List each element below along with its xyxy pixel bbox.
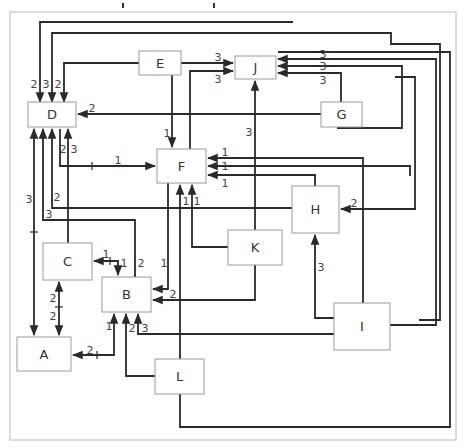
node-k: K — [228, 230, 282, 265]
edge-weight-label: 3 — [320, 60, 327, 73]
edge-weight-label: 2 — [50, 310, 57, 323]
node-e: E — [139, 51, 181, 75]
edge-weight-label: 3 — [215, 73, 222, 86]
edge-weight-label: 2 — [60, 143, 67, 156]
edge-f-to-j — [190, 71, 233, 149]
node-f: F — [157, 149, 206, 183]
edge-weight-label: 3 — [43, 78, 50, 91]
edge-weight-label: 2 — [351, 197, 358, 210]
edge-weight-label: 3 — [246, 126, 253, 139]
edge-weight-label: 1 — [222, 160, 229, 173]
edge-weight-label: 1 — [183, 195, 190, 208]
node-l: L — [155, 359, 204, 394]
top-mark — [213, 3, 215, 8]
edge-f-to-b — [153, 183, 168, 289]
edge-weight-label: 1 — [115, 154, 122, 167]
edge-e-to-d — [64, 63, 139, 102]
diagram-frame — [10, 12, 456, 440]
node-label: K — [251, 240, 260, 255]
edge-weight-label: 2 — [31, 78, 38, 91]
edge-weight-label: 1 — [121, 257, 128, 270]
nodes-layer: DEJGFHCKBIAL — [17, 51, 390, 394]
node-label: I — [360, 319, 364, 334]
node-c: C — [43, 243, 92, 280]
node-b: B — [102, 277, 151, 312]
node-a: A — [17, 337, 71, 371]
node-g: G — [321, 102, 362, 127]
edge-i-to-b — [138, 314, 334, 334]
edge-weight-label: 3 — [71, 143, 78, 156]
edge-weight-label: 2 — [55, 78, 62, 91]
node-label: H — [311, 202, 321, 217]
edge-weight-label: 3 — [215, 51, 222, 64]
node-h: H — [292, 186, 339, 233]
edge-weight-label: 3 — [46, 208, 53, 221]
top-marks — [122, 3, 215, 8]
node-label: D — [47, 107, 57, 122]
edge-g-to-j — [278, 73, 341, 102]
edge-weight-label: 1 — [161, 257, 168, 270]
edge-weight-label: 2 — [50, 292, 57, 305]
node-i: I — [334, 303, 390, 350]
edge-i-to-h — [315, 235, 334, 318]
edge-weight-label: 2 — [138, 257, 145, 270]
edge-weight-label: 2 — [87, 344, 94, 357]
node-label: J — [253, 60, 258, 75]
edge-weight-label: 1 — [222, 146, 229, 159]
edges-layer — [30, 22, 450, 427]
node-label: C — [63, 254, 72, 269]
node-label: G — [336, 107, 346, 122]
edge-weight-label: 2 — [89, 102, 96, 115]
edge-weight-label: 2 — [170, 288, 177, 301]
edge-weight-label: 1 — [222, 177, 229, 190]
edge-weight-label: 1 — [164, 127, 171, 140]
edge-weight-label: 1 — [194, 195, 201, 208]
edge-weight-label: 2 — [54, 191, 61, 204]
node-label: L — [176, 369, 184, 384]
edge-weight-label: 3 — [142, 322, 149, 335]
edge-weight-label: 1 — [106, 320, 113, 333]
node-label: A — [40, 347, 49, 362]
node-label: B — [122, 287, 131, 302]
directed-graph-diagram: DEJGFHCKBIAL 232331212333331111112233112… — [0, 0, 465, 448]
edge-weight-label: 3 — [318, 261, 325, 274]
node-j: J — [235, 56, 276, 79]
node-label: E — [156, 56, 164, 71]
node-d: D — [28, 102, 76, 127]
edge-j-to-h — [341, 77, 415, 209]
top-mark — [122, 3, 124, 8]
node-label: F — [178, 159, 185, 174]
edge-weight-label: 2 — [129, 322, 136, 335]
edge-c-to-b — [94, 261, 118, 275]
edge-weight-label: 1 — [103, 248, 110, 261]
edge-weight-label: 3 — [26, 193, 33, 206]
edge-weight-label: 3 — [320, 74, 327, 87]
